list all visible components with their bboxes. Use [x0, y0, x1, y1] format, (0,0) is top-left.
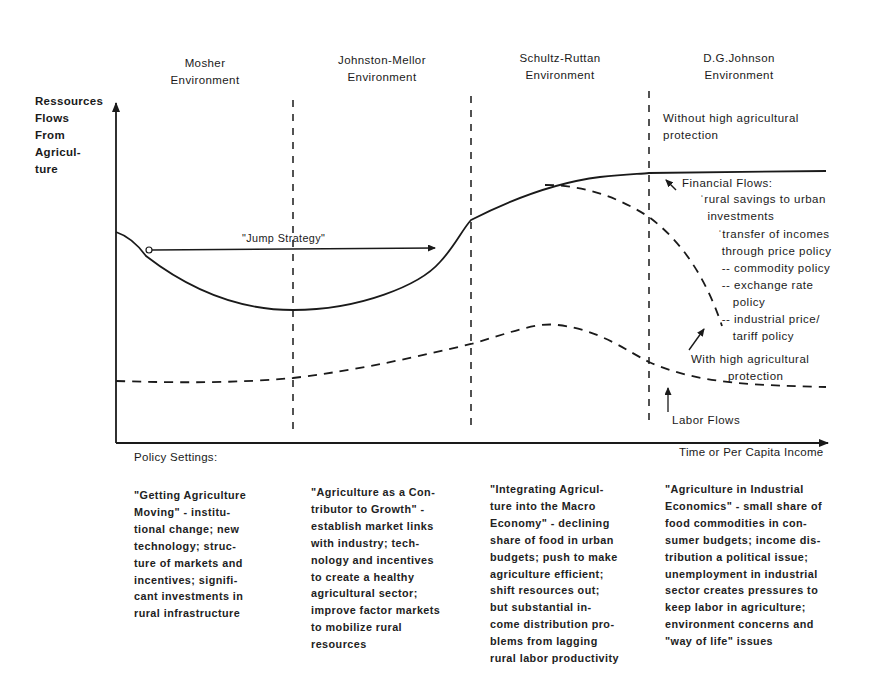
env-label-dg-johnson: D.G.Johnson Environment — [654, 50, 824, 84]
policy-setting-schultz-ruttan: "Integrating Agricul- ture into the Macr… — [490, 481, 619, 667]
phase-dividers — [293, 91, 649, 430]
jump-strategy-label: "Jump Strategy" — [242, 230, 325, 246]
jump-strategy-arrow — [146, 247, 435, 253]
env-suffix: Environment — [475, 67, 645, 84]
with-protection-label: With high agricultural protection — [691, 351, 809, 385]
env-label-schultz-ruttan: Schultz-Ruttan Environment — [475, 50, 645, 84]
financial-flows-curve-with-protection — [545, 185, 722, 326]
env-suffix: Environment — [654, 67, 824, 84]
financial-flows-item-price-policy: ˈtransfer of incomes through price polic… — [718, 226, 831, 345]
env-name: Johnston-Mellor — [297, 52, 467, 69]
env-name: Mosher — [120, 55, 290, 72]
financial-flows-title: Financial Flows: — [682, 175, 772, 192]
policy-setting-mosher: "Getting Agriculture Moving" - institu- … — [134, 487, 246, 622]
env-suffix: Environment — [297, 69, 467, 86]
policy-setting-johnston-mellor: "Agriculture as a Con- tributor to Growt… — [311, 484, 440, 653]
env-label-mosher: Mosher Environment — [120, 55, 290, 89]
env-label-johnston-mellor: Johnston-Mellor Environment — [297, 52, 467, 86]
labor-flows-label: Labor Flows — [672, 412, 740, 429]
policy-setting-dg-johnson: "Agriculture in Industrial Economics" - … — [665, 481, 822, 650]
x-axis-label: Time or Per Capita Income — [679, 444, 823, 461]
env-name: D.G.Johnson — [654, 50, 824, 67]
without-protection-label: Without high agricultural protection — [663, 110, 799, 144]
policy-settings-heading: Policy Settings: — [134, 449, 217, 466]
env-name: Schultz-Ruttan — [475, 50, 645, 67]
financial-flows-item-savings: ˈrural savings to urban investments — [700, 191, 826, 225]
with-protection-pointer-arrow — [689, 329, 704, 350]
y-axis-label: Ressources Flows From Agricul- ture — [35, 93, 103, 178]
env-suffix: Environment — [120, 72, 290, 89]
financial-flows-pointer-arrow — [666, 180, 676, 190]
